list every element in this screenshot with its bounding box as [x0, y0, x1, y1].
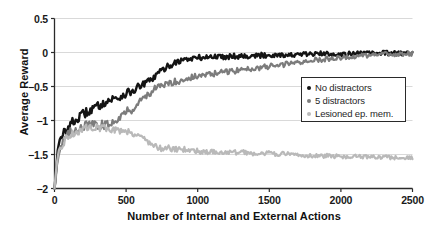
legend-item: No distractors — [307, 81, 401, 94]
x-tick-label: 1500 — [244, 195, 294, 205]
x-tick-label: 2500 — [388, 195, 438, 205]
legend-item-label: 5 distractors — [315, 96, 365, 106]
legend-item-label: Lesioned ep. mem. — [315, 109, 393, 119]
x-tick-label: 1000 — [173, 195, 223, 205]
legend-marker-dot-icon — [307, 99, 311, 103]
x-axis-label: Number of Internal and External Actions — [54, 210, 414, 222]
y-axis-label: Average Reward — [18, 27, 30, 157]
y-tick-label: 0.5 — [8, 14, 48, 24]
x-tick-label: 500 — [101, 195, 151, 205]
chart-legend: No distractors5 distractorsLesioned ep. … — [301, 77, 406, 122]
x-tick-label: 0 — [30, 195, 80, 205]
x-tick-label: 2000 — [316, 195, 366, 205]
legend-marker-dot-icon — [307, 112, 311, 116]
y-tick-label: −2 — [8, 184, 48, 194]
legend-item: 5 distractors — [307, 94, 401, 107]
series-line-lesioned-ep-mem — [55, 124, 413, 188]
chart-figure: 0.50−0.5−1−1.5−2 05001000150020002500 Av… — [0, 0, 438, 232]
legend-item: Lesioned ep. mem. — [307, 107, 401, 120]
legend-item-label: No distractors — [315, 83, 372, 93]
legend-marker-dot-icon — [307, 86, 311, 90]
